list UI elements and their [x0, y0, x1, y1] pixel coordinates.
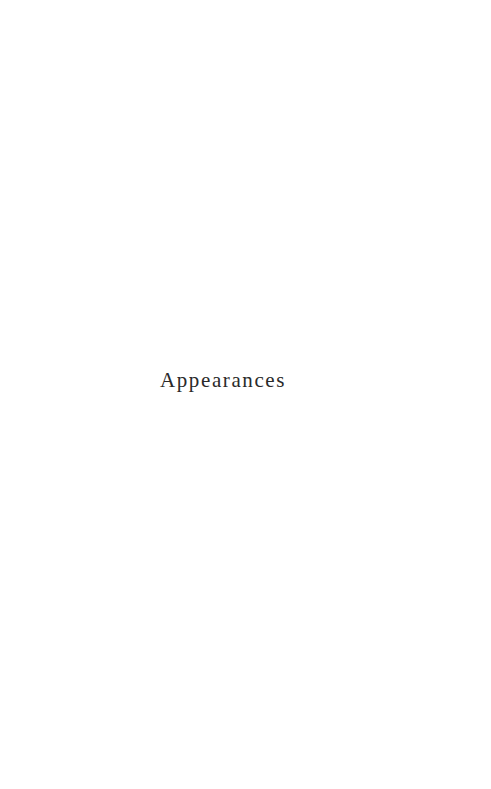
- book-page: Appearances: [0, 0, 491, 789]
- half-title: Appearances: [160, 366, 286, 394]
